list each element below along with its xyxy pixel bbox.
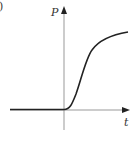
y-axis-label: P: [50, 6, 59, 19]
y-axis-arrow-icon: [61, 6, 67, 14]
p-curve: [10, 32, 128, 110]
x-axis-label: t: [124, 116, 129, 129]
part-label: ): [0, 0, 3, 13]
diagram-canvas: ) P t: [0, 0, 138, 142]
x-axis-arrow-icon: [122, 107, 130, 113]
